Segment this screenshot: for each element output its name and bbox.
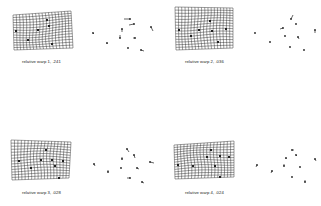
displacement-vector: [280, 28, 283, 29]
vector-point: [284, 35, 286, 37]
landmark-point: [37, 29, 39, 31]
landmark-point: [54, 165, 56, 167]
landmark-point: [192, 165, 194, 167]
landmark-point: [30, 167, 32, 169]
landmark-point: [48, 25, 50, 27]
vector-point: [303, 49, 305, 51]
displacement-vector: [291, 15, 293, 19]
displacement-vector: [256, 165, 257, 167]
vector-point: [269, 41, 271, 43]
vector-plot-4: [256, 149, 316, 183]
landmark-point: [51, 159, 53, 161]
landmark-point: [15, 30, 17, 32]
landmark-point: [219, 155, 221, 157]
landmark-point: [206, 156, 208, 158]
figure-canvas: [0, 0, 321, 206]
vector-point: [299, 166, 301, 168]
landmark-point: [209, 20, 211, 22]
vector-plot-2: [254, 15, 316, 51]
landmark-point: [210, 149, 212, 151]
displacement-vector: [141, 50, 144, 51]
displacement-vector: [298, 37, 299, 39]
landmark-point: [40, 159, 42, 161]
deformation-grid-2: [175, 7, 233, 50]
landmark-point: [228, 156, 230, 158]
displacement-vector: [129, 24, 134, 25]
landmark-point: [27, 39, 29, 41]
landmark-point: [225, 28, 227, 30]
vector-point: [295, 23, 297, 25]
landmark-point: [46, 19, 48, 21]
landmark-point: [58, 177, 60, 179]
landmark-point: [219, 176, 221, 178]
landmark-point: [51, 43, 53, 45]
displacement-vector: [134, 155, 135, 158]
displacement-vector: [94, 164, 95, 166]
landmark-point: [177, 164, 179, 166]
displacement-vector: [137, 168, 139, 169]
landmark-point: [178, 29, 180, 31]
caption-warp-4: relative warp 4, .024: [185, 190, 224, 195]
landmark-point: [217, 41, 219, 43]
displacement-vector: [315, 159, 316, 161]
vector-point: [254, 32, 256, 34]
vector-point: [120, 167, 122, 169]
displacement-vector: [151, 27, 153, 31]
vector-plot-1: [92, 18, 153, 51]
landmark-point: [211, 30, 213, 32]
landmark-point: [18, 160, 20, 162]
landmark-point: [214, 165, 216, 167]
landmark-point: [190, 35, 192, 37]
deformation-grid-4: [174, 141, 234, 179]
vector-point: [291, 176, 293, 178]
deformation-grid-3: [11, 140, 71, 180]
caption-warp-2: relative warp 2, .036: [185, 59, 224, 64]
displacement-vector: [127, 149, 129, 152]
displacement-vector: [142, 182, 144, 183]
displacement-vector: [150, 162, 154, 163]
displacement-vector: [271, 171, 272, 173]
caption-warp-3: relative warp 3, .028: [22, 190, 61, 195]
vector-point: [289, 46, 291, 48]
landmark-point: [198, 29, 200, 31]
deformation-grid-1: [13, 11, 73, 50]
landmark-point: [45, 149, 47, 151]
vector-plot-3: [93, 148, 154, 183]
landmark-point: [62, 160, 64, 162]
vector-point: [127, 47, 129, 49]
caption-warp-1: relative warp 1, .241: [22, 59, 61, 64]
